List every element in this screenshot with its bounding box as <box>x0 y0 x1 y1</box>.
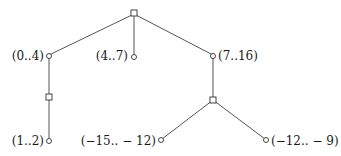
label-0-4: (0..4) <box>12 49 44 63</box>
square-node-right <box>210 97 216 103</box>
root-square-node <box>131 10 137 16</box>
node-m15-m12-circle <box>159 138 164 143</box>
node-7-16-circle <box>211 54 216 59</box>
label-m12-m9: (−12.. − 9) <box>271 134 339 148</box>
edge-sq2-nm12 <box>213 100 265 139</box>
tree-diagram: (0..4) (4..7) (7..16) (1..2) (−15.. − 12… <box>0 0 341 156</box>
label-7-16: (7..16) <box>218 49 258 63</box>
node-m12-m9-circle <box>264 138 269 143</box>
square-node-left <box>46 94 52 100</box>
node-4-7-circle <box>132 55 137 60</box>
label-m15-m12: (−15.. − 12) <box>81 134 156 148</box>
node-1-2-circle <box>47 139 52 144</box>
label-1-2: (1..2) <box>12 134 44 148</box>
edge-root-n716 <box>134 14 213 55</box>
node-0-4-circle <box>47 54 52 59</box>
edge-sq2-nm15 <box>162 100 213 139</box>
label-4-7: (4..7) <box>96 49 128 63</box>
